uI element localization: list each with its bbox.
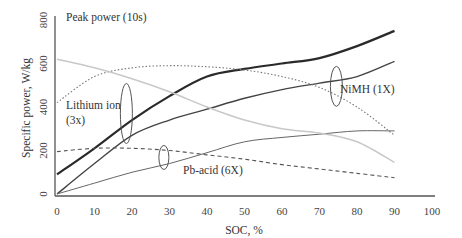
annotation-lithium-ion-ratio: (3x) — [66, 113, 121, 128]
x-tick-label: 20 — [127, 205, 139, 217]
annotation-lithium-ion-label: Lithium ion — [66, 98, 121, 113]
y-tick-label: 200 — [37, 142, 49, 159]
ellipse-pb-acid — [159, 145, 169, 169]
y-axis-label: Specific power, W/kg — [20, 58, 33, 158]
y-tick-label: 600 — [37, 55, 49, 72]
x-tick-label: 0 — [54, 205, 60, 217]
x-tick-label: 90 — [389, 205, 401, 217]
x-tick-label: 100 — [424, 205, 441, 217]
x-tick-label: 50 — [239, 205, 251, 217]
x-tick-label: 10 — [89, 205, 101, 217]
annotation-lithium-ion: Lithium ion (3x) — [66, 98, 121, 128]
specific-power-chart: 01020304050607080901000200400600800SOC, … — [0, 0, 462, 238]
x-tick-label: 30 — [164, 205, 176, 217]
y-tick-label: 0 — [37, 191, 49, 197]
x-tick-label: 70 — [314, 205, 326, 217]
chart-title: Peak power (10s) — [66, 11, 146, 23]
x-axis-label: SOC, % — [225, 224, 263, 237]
annotation-pb-acid: Pb-acid (6X) — [183, 163, 243, 178]
y-tick-label: 400 — [37, 98, 49, 115]
x-tick-label: 40 — [202, 205, 214, 217]
ellipse-lithium-ion — [120, 84, 132, 144]
y-tick-label: 800 — [37, 11, 49, 28]
annotation-nimh: NiMH (1X) — [340, 82, 395, 97]
x-tick-label: 80 — [352, 205, 364, 217]
x-tick-label: 60 — [277, 205, 289, 217]
